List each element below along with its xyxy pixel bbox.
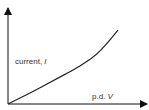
x-axis-label-text: p.d. — [92, 92, 108, 101]
x-axis-label: p.d. V — [92, 92, 113, 101]
iv-characteristic-plot — [0, 0, 149, 110]
x-axis-symbol: V — [108, 92, 113, 101]
y-axis-symbol: I — [44, 57, 46, 66]
y-axis-label-text: current, — [15, 57, 44, 66]
y-axis-label: current, I — [15, 57, 47, 66]
